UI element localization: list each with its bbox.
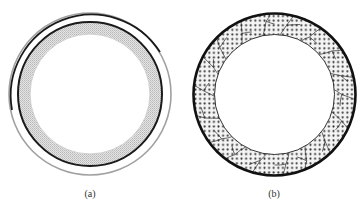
inner-boundary (30, 34, 150, 154)
inner-thin-ring (215, 35, 335, 155)
figure-canvas: (a) (b) (0, 0, 361, 204)
panel-a: (a) (0, 0, 181, 204)
panel-b: (b) (181, 0, 361, 204)
panel-a-label: (a) (84, 188, 95, 200)
panel-b-label: (b) (268, 188, 280, 200)
